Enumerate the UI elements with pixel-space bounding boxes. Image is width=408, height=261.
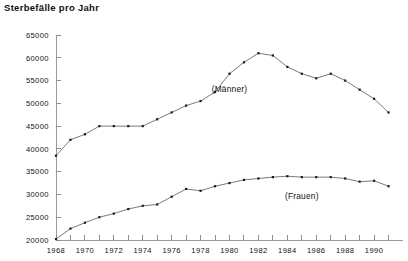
- series-data-point: [113, 125, 115, 127]
- series-data-point: [199, 190, 201, 192]
- series-line: [56, 176, 389, 239]
- series-data-point: [373, 180, 375, 182]
- series-data-point: [257, 177, 259, 179]
- x-axis-tick-label: 1974: [134, 246, 153, 255]
- series-data-point: [142, 205, 144, 207]
- series-data-point: [387, 185, 389, 187]
- series-data-point: [330, 176, 332, 178]
- series-data-point: [315, 176, 317, 178]
- series-data-point: [387, 111, 389, 113]
- series-data-point: [272, 54, 274, 56]
- y-axis-tick-label: 60000: [26, 54, 49, 63]
- series-data-point: [257, 52, 259, 54]
- y-axis-tick-label: 65000: [26, 31, 49, 40]
- series-data-point: [98, 125, 100, 127]
- x-axis-tick-label: 1970: [76, 246, 95, 255]
- series-group: (Frauen): [55, 175, 390, 240]
- series-data-point: [243, 179, 245, 181]
- series-group: (Männer): [55, 52, 390, 157]
- series-data-point: [301, 176, 303, 178]
- x-axis-tick-label: 1972: [105, 246, 124, 255]
- series-data-point: [330, 73, 332, 75]
- series-data-point: [84, 133, 86, 135]
- series-data-point: [127, 125, 129, 127]
- series-data-point: [359, 181, 361, 183]
- series-data-point: [214, 185, 216, 187]
- y-axis-tick-label: 30000: [26, 190, 49, 199]
- x-axis-tick-label: 1990: [365, 246, 384, 255]
- series-data-point: [199, 100, 201, 102]
- series-data-point: [171, 111, 173, 113]
- series-data-point: [286, 66, 288, 68]
- series-label: (Männer): [212, 84, 248, 94]
- series-data-point: [185, 105, 187, 107]
- series-data-point: [84, 222, 86, 224]
- series-data-point: [113, 212, 115, 214]
- series-data-point: [55, 155, 57, 157]
- y-axis-tick-label: 55000: [26, 76, 49, 85]
- series-data-point: [344, 177, 346, 179]
- x-axis-tick-label: 1976: [162, 246, 181, 255]
- x-axis-tick-label: 1978: [191, 246, 210, 255]
- series-data-point: [228, 73, 230, 75]
- series-label: (Frauen): [285, 191, 319, 201]
- series-data-point: [315, 77, 317, 79]
- series-data-point: [98, 216, 100, 218]
- line-chart-canvas: 2000025000300003500040000450005000055000…: [0, 0, 408, 261]
- x-axis-tick-label: 1968: [47, 246, 66, 255]
- series-data-point: [359, 89, 361, 91]
- series-data-point: [185, 188, 187, 190]
- x-axis-tick-label: 1986: [307, 246, 326, 255]
- series-data-point: [228, 182, 230, 184]
- x-axis-tick-label: 1982: [249, 246, 268, 255]
- series-data-point: [286, 175, 288, 177]
- series-data-point: [156, 118, 158, 120]
- x-axis-tick-label: 1988: [336, 246, 355, 255]
- series-data-point: [69, 228, 71, 230]
- series-data-point: [373, 98, 375, 100]
- y-axis-tick-label: 45000: [26, 122, 49, 131]
- series-data-point: [142, 125, 144, 127]
- series-data-point: [156, 203, 158, 205]
- x-axis-tick-label: 1984: [278, 246, 297, 255]
- y-axis-tick-label: 35000: [26, 167, 49, 176]
- series-line: [56, 53, 389, 156]
- series-data-point: [55, 238, 57, 240]
- y-axis-tick-label: 25000: [26, 213, 49, 222]
- series-data-point: [127, 208, 129, 210]
- series-data-point: [272, 176, 274, 178]
- y-axis-tick-label: 40000: [26, 145, 49, 154]
- x-axis-tick-label: 1980: [220, 246, 239, 255]
- chart-root: Sterbefälle pro Jahr 2000025000300003500…: [0, 0, 408, 261]
- series-data-point: [69, 139, 71, 141]
- y-axis-tick-label: 50000: [26, 99, 49, 108]
- series-data-point: [344, 79, 346, 81]
- series-data-point: [171, 196, 173, 198]
- series-data-point: [243, 61, 245, 63]
- y-axis-tick-label: 20000: [26, 236, 49, 245]
- series-data-point: [301, 73, 303, 75]
